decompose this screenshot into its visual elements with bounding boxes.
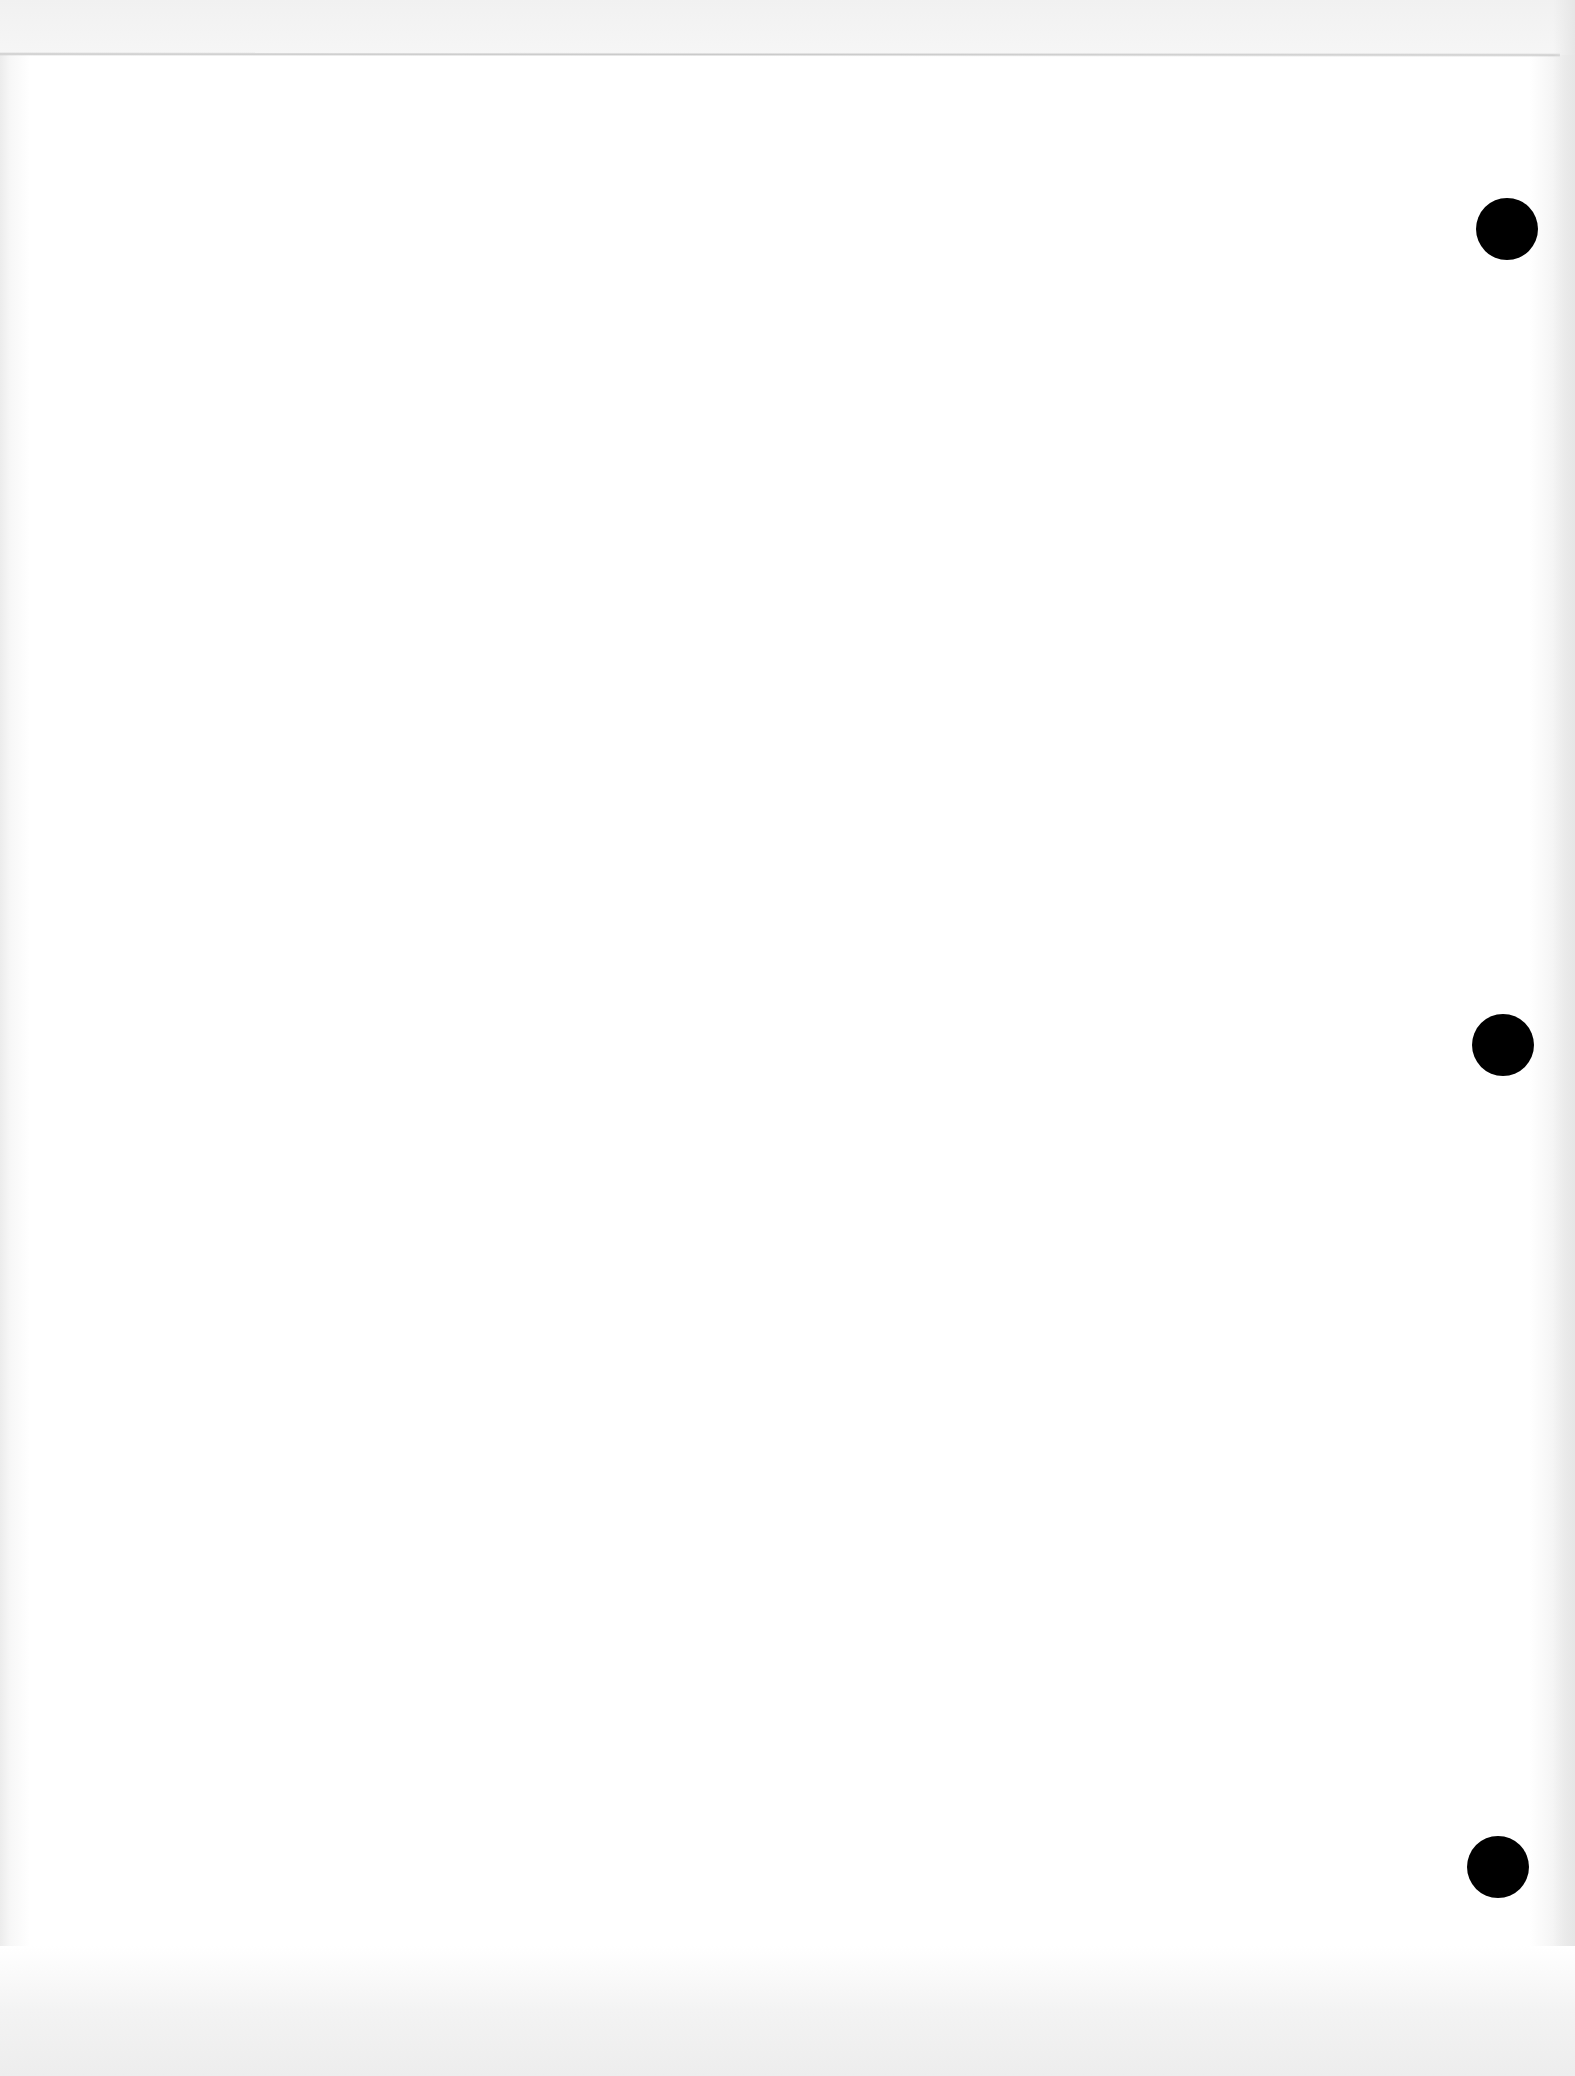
- punch-hole-top: [1476, 198, 1538, 260]
- top-edge-line: [0, 52, 1560, 57]
- punch-hole-middle: [1472, 1014, 1534, 1076]
- top-scan-band: [0, 0, 1575, 55]
- punch-hole-bottom: [1467, 1836, 1529, 1898]
- right-edge-shadow: [1553, 0, 1575, 2076]
- blank-page: [0, 0, 1575, 2076]
- bottom-scan-band: [0, 1946, 1575, 2076]
